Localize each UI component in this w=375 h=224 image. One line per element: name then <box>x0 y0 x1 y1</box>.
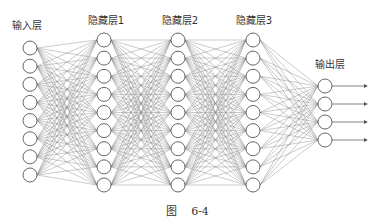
connection-edge <box>260 122 318 185</box>
hidden2-neuron <box>171 142 185 156</box>
hidden-layer-3-label: 隐藏层3 <box>236 12 272 27</box>
output-neuron <box>318 79 332 93</box>
connection-edge <box>260 40 318 86</box>
output-arrows <box>332 86 367 140</box>
connection-edge <box>260 58 318 86</box>
hidden1-neuron <box>97 33 111 47</box>
connection-edge <box>37 175 97 185</box>
input-neuron <box>23 41 37 55</box>
hidden3-neuron <box>246 124 260 138</box>
input-neuron <box>23 132 37 146</box>
figure-caption: 图6-4 <box>0 202 375 218</box>
input-neuron <box>23 95 37 109</box>
hidden3-neuron <box>246 87 260 101</box>
output-neuron <box>318 97 332 111</box>
hidden1-neuron <box>97 142 111 156</box>
hidden3-neuron <box>246 106 260 120</box>
caption-number: 6-4 <box>191 205 209 218</box>
output-layer-label: 输出层 <box>315 56 345 71</box>
hidden2-neuron <box>171 124 185 138</box>
hidden3-neuron <box>246 69 260 83</box>
hidden1-neuron <box>97 87 111 101</box>
input-layer-label: 输入层 <box>12 17 42 32</box>
hidden-layer-2-label: 隐藏层2 <box>162 12 198 27</box>
connection-edge <box>260 140 318 185</box>
hidden2-neuron <box>171 178 185 192</box>
connection-edge <box>260 76 318 86</box>
neural-network-diagram <box>0 0 375 224</box>
hidden3-neuron <box>246 51 260 65</box>
input-neuron <box>23 168 37 182</box>
hidden2-neuron <box>171 69 185 83</box>
input-neuron <box>23 59 37 73</box>
hidden3-neuron <box>246 178 260 192</box>
hidden-layer-1-label: 隐藏层1 <box>88 12 124 27</box>
hidden1-neuron <box>97 106 111 120</box>
hidden2-neuron <box>171 87 185 101</box>
hidden1-neuron <box>97 69 111 83</box>
hidden2-neuron <box>171 51 185 65</box>
output-neuron <box>318 133 332 147</box>
input-neuron <box>23 77 37 91</box>
connection-edge <box>260 86 318 185</box>
hidden3-neuron <box>246 160 260 174</box>
hidden1-neuron <box>97 160 111 174</box>
hidden2-neuron <box>171 106 185 120</box>
input-neuron <box>23 150 37 164</box>
output-neuron <box>318 115 332 129</box>
hidden3-neuron <box>246 142 260 156</box>
caption-prefix: 图 <box>166 205 177 218</box>
hidden2-neuron <box>171 33 185 47</box>
input-neuron <box>23 114 37 128</box>
hidden1-neuron <box>97 124 111 138</box>
connection-edge <box>260 86 318 149</box>
hidden1-neuron <box>97 51 111 65</box>
hidden2-neuron <box>171 160 185 174</box>
hidden3-neuron <box>246 33 260 47</box>
hidden1-neuron <box>97 178 111 192</box>
